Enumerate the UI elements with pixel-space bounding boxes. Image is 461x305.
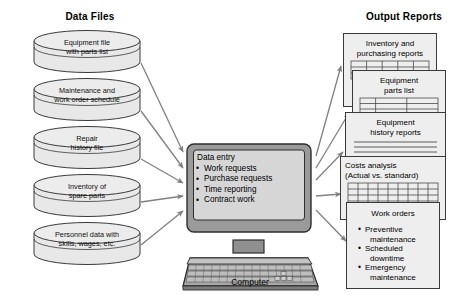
monitor-neck <box>233 240 264 253</box>
report-card-title: Work orders <box>350 209 436 219</box>
work-orders-item: Preventive maintenance <box>358 225 416 244</box>
work-orders-item: Emergency maintenance <box>358 263 416 282</box>
computer-caption: Computer <box>205 277 295 287</box>
work-orders-item: Scheduled downtime <box>358 244 416 263</box>
diagram-canvas: Data Files Output Reports <box>0 0 461 305</box>
work-orders-list: Preventive maintenance Scheduled downtim… <box>358 225 416 283</box>
report-card-work-orders[interactable]: Work orders Preventive maintenance Sched… <box>346 202 440 289</box>
